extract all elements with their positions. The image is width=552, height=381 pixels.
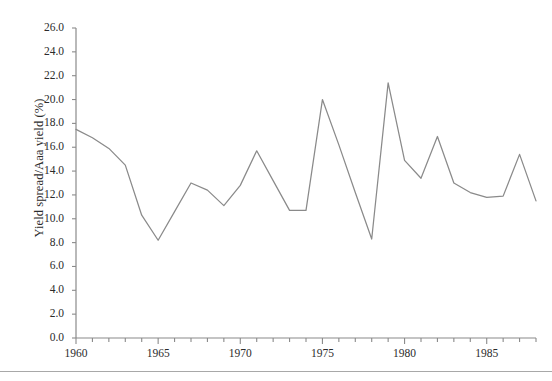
- y-axis-tick-label: 26.0: [28, 22, 64, 34]
- x-axis-tick-label: 1965: [136, 348, 180, 360]
- chart-container: Yield spread/Aaa yield (%) 0.02.04.06.08…: [0, 0, 552, 381]
- y-axis-tick-label: 8.0: [28, 237, 64, 249]
- x-axis-tick-label: 1975: [300, 348, 344, 360]
- page-bottom-rule: [0, 371, 552, 372]
- x-axis-tick-label: 1960: [54, 348, 98, 360]
- y-axis-tick-label: 16.0: [28, 141, 64, 153]
- chart-plot-area: [0, 0, 552, 381]
- y-axis-tick-label: 6.0: [28, 260, 64, 272]
- x-axis-tick-label: 1970: [218, 348, 262, 360]
- y-axis-tick-label: 22.0: [28, 70, 64, 82]
- data-series-line: [76, 83, 536, 240]
- x-axis-tick-label: 1985: [465, 348, 509, 360]
- y-axis-tick-label: 4.0: [28, 284, 64, 296]
- y-axis-tick-label: 14.0: [28, 165, 64, 177]
- y-axis-tick-label: 20.0: [28, 94, 64, 106]
- x-axis-tick-label: 1980: [383, 348, 427, 360]
- y-axis-tick-label: 0.0: [28, 332, 64, 344]
- y-axis-tick-label: 10.0: [28, 213, 64, 225]
- x-axis-ticks: [76, 338, 536, 344]
- y-axis-tick-label: 12.0: [28, 189, 64, 201]
- y-axis-tick-label: 18.0: [28, 117, 64, 129]
- y-axis-tick-label: 2.0: [28, 308, 64, 320]
- y-axis-tick-label: 24.0: [28, 46, 64, 58]
